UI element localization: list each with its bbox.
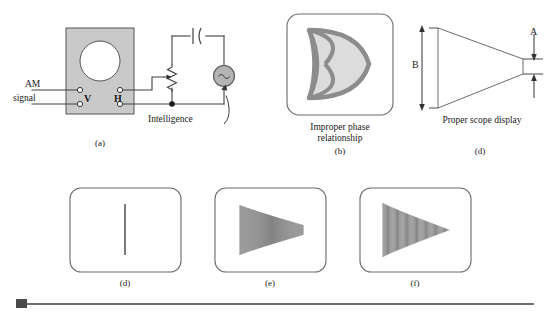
junction-dot	[169, 101, 175, 107]
am-signal-label-line2: signal	[13, 93, 36, 103]
v-terminal-bottom	[77, 101, 82, 106]
am-signal-label-line1: AM	[25, 79, 40, 89]
intelligence-label: Intelligence	[148, 114, 193, 124]
panel-b-sublabel: (b)	[320, 146, 360, 156]
panel-b-caption: Improper phase relationship	[281, 122, 399, 144]
panel-a-sublabel: (a)	[80, 138, 120, 148]
panel-d-sublabel: (d)	[105, 278, 145, 288]
dimension-b	[419, 25, 438, 111]
panel-c-trapezoid	[405, 8, 545, 126]
v-terminal-label: V	[84, 93, 91, 104]
panel-f-sublabel: (f)	[395, 278, 435, 288]
panel-e-sublabel: (e)	[250, 278, 290, 288]
h-terminal-top	[117, 87, 122, 92]
panel-c-caption: Proper scope display	[418, 115, 546, 126]
panel-d-display	[68, 186, 183, 274]
figure-root: AM signal V H Intelligence (a) Improper …	[0, 0, 550, 315]
v-terminal-top	[77, 87, 82, 92]
dimension-b-label: B	[412, 59, 419, 70]
panel-c-sublabel: (d)	[460, 146, 500, 156]
dimension-a-label: A	[530, 26, 537, 37]
footer-marker	[16, 299, 27, 308]
trapezoid-shape	[438, 28, 523, 108]
dimension-a	[523, 34, 543, 98]
panel-f-display	[358, 186, 473, 274]
h-terminal-label: H	[114, 93, 122, 104]
panel-b-display	[285, 12, 395, 117]
potentiometer-wiper	[163, 75, 172, 80]
panel-a-circuit	[0, 6, 270, 141]
footer-rule	[16, 303, 534, 305]
crt-screen	[80, 41, 120, 81]
capacitor	[193, 28, 201, 44]
panel-e-display	[213, 186, 328, 274]
